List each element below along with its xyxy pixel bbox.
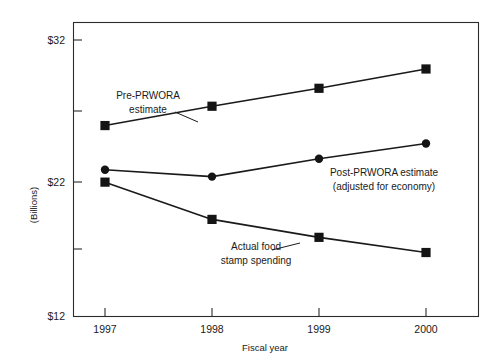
annotation-actual-line1: Actual food [231, 241, 281, 252]
annotation-post-prwora-line1: Post-PRWORA estimate [330, 167, 439, 178]
annotation-pre-prwora-line1: Pre-PRWORA [116, 90, 180, 101]
annotation-post-prwora-line2: (adjusted for economy) [333, 181, 435, 192]
data-point [314, 84, 323, 93]
chart-container: $32 $22 $12 (Billions) 1997 1998 1999 20… [0, 0, 499, 363]
x-tick-label-1997: 1997 [93, 323, 117, 335]
annotation-pre-prwora-line2: estimate [129, 104, 167, 115]
data-point [208, 172, 216, 180]
data-point [421, 248, 430, 257]
annotation-leaders [175, 112, 300, 250]
annotation-actual: Actual food stamp spending [221, 241, 292, 266]
x-tick-label-1998: 1998 [200, 323, 224, 335]
x-tick-label-1999: 1999 [307, 323, 331, 335]
data-point [101, 166, 109, 174]
data-point [207, 215, 216, 224]
annotation-pre-prwora: Pre-PRWORA estimate [116, 90, 180, 115]
y-tick-label-32: $32 [47, 34, 65, 46]
line-chart: $32 $22 $12 (Billions) 1997 1998 1999 20… [0, 0, 499, 363]
y-tick-label-22: $22 [47, 176, 65, 188]
x-axis-ticks [105, 308, 426, 317]
y-tick-label-12: $12 [47, 310, 65, 322]
data-point [422, 139, 430, 147]
x-axis-title: Fiscal year [242, 342, 288, 353]
y-axis-title: (Billions) [28, 187, 39, 223]
leader-pre-prwora [175, 112, 198, 122]
data-point [314, 233, 323, 242]
x-tick-label-2000: 2000 [414, 323, 438, 335]
annotation-post-prwora: Post-PRWORA estimate (adjusted for econo… [330, 167, 439, 192]
data-point [315, 154, 323, 162]
data-point [100, 121, 109, 130]
annotation-actual-line2: stamp spending [221, 255, 292, 266]
data-point [100, 178, 109, 187]
y-axis-ticks [74, 40, 83, 249]
data-point [421, 64, 430, 73]
data-point [207, 102, 216, 111]
